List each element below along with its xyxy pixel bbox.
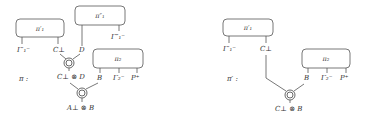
- label-p-plus: P⁺: [130, 74, 140, 82]
- label-c-perp: C⊥: [53, 46, 65, 54]
- label-p-plus-right: P⁺: [339, 74, 349, 82]
- right-diagram: π′ : π′₁ Γ′₁⁻ C⊥ π₂ B Γ₂⁻ P⁺ C⊥ ⊗ B: [222, 19, 350, 113]
- label-c-perp-right: C⊥: [260, 45, 272, 53]
- label-b: B: [96, 74, 102, 82]
- tensor-node-2: [77, 88, 87, 98]
- label-b-right: B: [303, 74, 309, 82]
- wire: [60, 54, 66, 59]
- box-pi1-prime-label: π′₁: [35, 25, 44, 33]
- left-diagram-name: π :: [18, 75, 28, 83]
- box-pi2: π₂: [93, 49, 143, 68]
- box-pi2-right-label: π₂: [322, 55, 330, 63]
- label-gamma2: Γ₂⁻: [112, 74, 125, 82]
- label-c-tensor-b: C⊥ ⊗ B: [275, 105, 302, 113]
- wire: [73, 54, 80, 59]
- label-gamma1-prime-right: Γ′₁⁻: [222, 45, 236, 53]
- wire: [86, 83, 98, 89]
- wire: [266, 55, 286, 91]
- wire: [70, 83, 78, 89]
- box-pi1-double-prime: π″₁: [75, 6, 125, 25]
- box-pi2-right: π₂: [302, 49, 350, 68]
- label-c-tensor-d: C⊥ ⊗ D: [57, 73, 85, 81]
- left-diagram: π : π′₁ Γ′₁⁻ C⊥ π″₁ D Γ″₁⁻ C⊥ ⊗ D: [16, 6, 143, 112]
- label-gamma1-prime: Γ′₁⁻: [16, 46, 30, 54]
- tensor-node-right: [285, 90, 295, 100]
- box-pi1-prime-right: π′₁: [223, 19, 273, 36]
- right-diagram-name: π′ :: [226, 75, 238, 83]
- label-d: D: [78, 46, 85, 54]
- proof-net-diagrams: π : π′₁ Γ′₁⁻ C⊥ π″₁ D Γ″₁⁻ C⊥ ⊗ D: [0, 0, 367, 120]
- tensor-node-1: [64, 58, 74, 68]
- label-gamma1-double-prime: Γ″₁⁻: [110, 33, 125, 41]
- box-pi1-prime: π′₁: [16, 19, 64, 37]
- box-pi2-label: π₂: [114, 55, 122, 63]
- box-pi1-prime-right-label: π′₁: [243, 24, 252, 32]
- label-gamma2-right: Γ₂⁻: [320, 74, 333, 82]
- wire: [294, 84, 304, 91]
- label-a-tensor-b: A⊥ ⊗ B: [66, 104, 94, 112]
- box-pi1-double-prime-label: π″₁: [94, 12, 104, 20]
